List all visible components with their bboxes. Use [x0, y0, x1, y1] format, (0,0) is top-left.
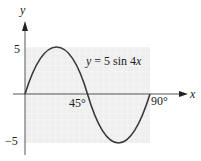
equation-label: y = 5 sin 4x	[85, 54, 142, 68]
x-tick-90: 90°	[151, 94, 168, 108]
y-axis-arrow-icon	[22, 21, 28, 31]
y-tick-neg5: −5	[5, 134, 18, 148]
equation-mid: = 5 sin 4	[91, 54, 136, 68]
y-axis-label: y	[19, 3, 26, 17]
x-tick-45: 45°	[69, 96, 86, 110]
x-axis-arrow-icon	[179, 91, 188, 97]
y-tick-5: 5	[14, 42, 20, 56]
x-axis-label: x	[189, 87, 196, 101]
equation-var: x	[135, 54, 142, 68]
sine-chart: y x 5 −5 45° 90° y = 5 sin 4x	[0, 0, 201, 161]
